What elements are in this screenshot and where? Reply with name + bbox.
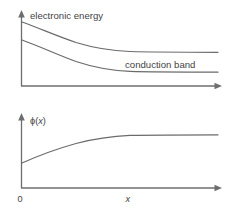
conduction-band-label: conduction band — [125, 59, 195, 70]
band-diagram-figure: electronic energy conduction band ϕ(x) 0 — [0, 0, 235, 211]
bottom-y-axis — [18, 113, 25, 188]
top-x-axis-arrowhead — [215, 83, 223, 90]
bottom-y-axis-arrowhead — [18, 113, 25, 121]
bottom-x-axis — [21, 185, 222, 192]
phi-symbol: ϕ( — [30, 116, 38, 126]
x-axis-label: x — [125, 194, 131, 204]
electronic-energy-label: electronic energy — [30, 10, 103, 21]
upper-band-curve — [22, 22, 218, 52]
top-y-axis-arrowhead — [18, 10, 25, 18]
phi-axis-label: ϕ(x) — [30, 116, 46, 126]
phi-paren-close: ) — [43, 116, 46, 126]
potential-curve — [22, 135, 218, 163]
top-y-axis — [18, 10, 25, 86]
top-panel: electronic energy conduction band — [18, 10, 222, 90]
origin-label: 0 — [18, 194, 23, 204]
figure-container: electronic energy conduction band ϕ(x) 0 — [0, 0, 235, 211]
bottom-panel: ϕ(x) 0 x — [18, 113, 223, 204]
bottom-x-axis-arrowhead — [215, 185, 223, 192]
top-x-axis — [21, 83, 222, 90]
